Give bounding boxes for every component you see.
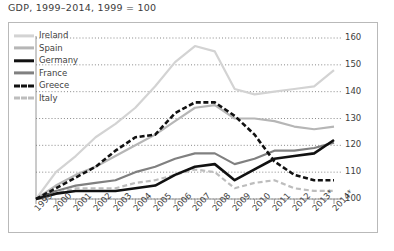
x-axis-tick-label: 2008 (211, 191, 232, 213)
x-axis-tick-label: 2003 (112, 191, 133, 213)
x-axis-tick-label: 2009 (231, 191, 252, 213)
x-axis-tick-label: 2010 (251, 191, 272, 213)
x-axis-tick-label: 2012 (291, 191, 312, 213)
x-axis-tick-label: 2004 (132, 191, 153, 213)
x-axis-tick-label: 2013* (311, 188, 335, 213)
x-axis-tick-label: 2005 (152, 191, 173, 213)
x-axis-tick-label: 2000 (52, 191, 73, 213)
x-axis-tick-label: 2014* (331, 188, 355, 213)
x-axis-tick-label: 2001 (72, 191, 93, 213)
x-axis-tick-label: 2002 (92, 191, 113, 213)
x-axis-tick-label: 2006 (172, 191, 193, 213)
x-axis-tick-label: 2011 (271, 191, 292, 213)
x-axis-tick-label: 2007 (191, 191, 212, 213)
x-axis-labels: 1999200020012002200320042005200620072008… (0, 0, 394, 251)
x-axis-tick-label: 1999 (33, 191, 54, 213)
